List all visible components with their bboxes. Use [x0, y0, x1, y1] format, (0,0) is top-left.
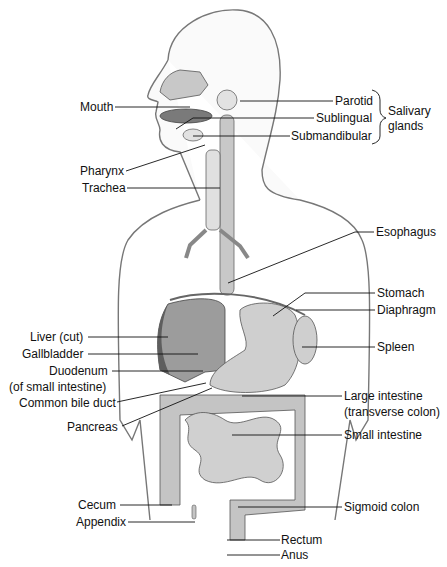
tongue [160, 109, 212, 123]
anatomy-illustration [0, 0, 447, 567]
label-salivary: Salivary [388, 104, 431, 118]
esophagus [220, 115, 234, 295]
label-duodenum-sub: (of small intestine) [9, 380, 106, 394]
label-esophagus: Esophagus [376, 225, 436, 239]
salivary-brace [372, 90, 386, 144]
parotid-gland [217, 90, 237, 110]
label-diaphragm: Diaphragm [377, 303, 436, 317]
label-trachea: Trachea [82, 181, 126, 195]
label-gallbladder: Gallbladder [22, 347, 83, 361]
label-parotid: Parotid [335, 94, 373, 108]
label-stomach: Stomach [377, 286, 424, 300]
label-duodenum: Duodenum [49, 364, 108, 378]
label-submandibular: Submandibular [291, 129, 372, 143]
label-pancreas: Pancreas [67, 420, 118, 434]
label-sigmoid-colon: Sigmoid colon [344, 500, 419, 514]
liver [158, 299, 225, 382]
label-sublingual: Sublingual [316, 111, 372, 125]
trachea [206, 150, 220, 230]
label-spleen: Spleen [377, 340, 414, 354]
label-large-intestine: Large intestine [344, 389, 423, 403]
label-anus: Anus [281, 548, 308, 562]
label-liver: Liver (cut) [30, 330, 83, 344]
label-appendix: Appendix [76, 515, 126, 529]
label-cecum: Cecum [78, 498, 116, 512]
label-small-intestine: Small intestine [344, 428, 422, 442]
label-pharynx: Pharynx [80, 164, 124, 178]
bronchi [186, 230, 248, 258]
appendix [192, 505, 196, 519]
label-rectum: Rectum [281, 533, 322, 547]
spleen [293, 316, 317, 364]
label-large-intestine-sub: (transverse colon) [344, 405, 440, 419]
label-glands: glands [388, 119, 423, 133]
digestive-system-diagram: Mouth Pharynx Trachea Liver (cut) Gallbl… [0, 0, 447, 567]
label-common-bile-duct: Common bile duct [19, 396, 116, 410]
small-intestine [185, 413, 283, 483]
submandibular-gland [183, 129, 203, 141]
label-mouth: Mouth [80, 100, 113, 114]
